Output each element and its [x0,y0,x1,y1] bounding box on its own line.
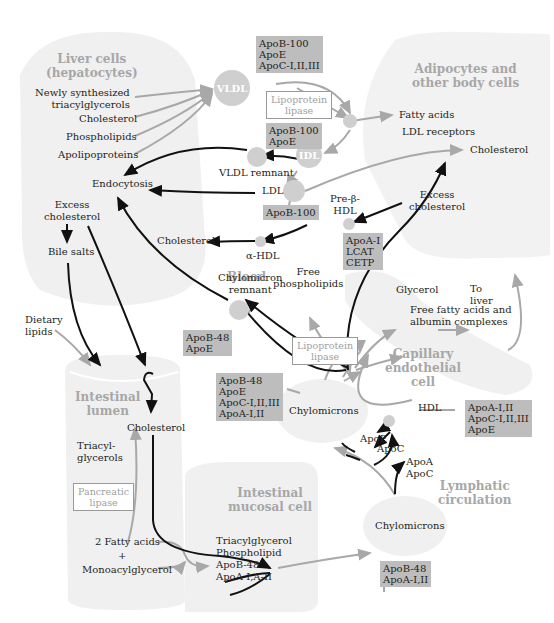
label-cholesterol-lumen: Cholesterol [127,422,185,434]
enzyme-lipoprotein-lipase-top: Lipoprotein lipase [266,91,332,119]
label-alpha-hdl: α-HDL [246,250,280,262]
label-bile-salts: Bile salts [48,246,94,258]
apo-box-vldl: ApoB-100 ApoE ApoC-I,II,III [256,36,323,73]
label-apoc: ApoC [377,443,404,455]
label-free-phospholipids: Free phospholipids [273,266,343,290]
enzyme-lipoprotein-lipase-bottom: Lipoprotein lipase [292,337,358,365]
region-capillary-label: Capillary endothelial cell [385,347,461,389]
label-apoa-apoc: ApoA ApoC [406,456,433,480]
label-triacylglycerols: Triacyl- glycerols [77,440,123,464]
vldl-node: VLDL [214,70,250,106]
pre-beta-hdl-node [343,218,355,230]
label-hdl: HDL [418,402,441,414]
apo-box-chylomicron-lymph: ApoB-48 ApoA-I,II [380,561,431,587]
label-ldl-receptors: LDL receptors [402,126,475,138]
label-dietary-lipids: Dietary lipids [25,314,63,338]
label-mucosal-products: Triacylglycerol Phospholipid ApoB-48 Apo… [216,535,292,583]
label-glycerol: Glycerol [396,284,438,296]
vldl-remnant-node [247,147,267,167]
label-ldl: LDL [262,185,283,197]
apo-box-chylomicron-remnant: ApoB-48 ApoE [183,330,232,356]
lipoprotein-metabolism-diagram: Liver cells (hepatocytes) Adipocytes and… [0,0,554,623]
label-endocytosis: Endocytosis [92,178,153,190]
enzyme-pancreatic-lipase: Pancreatic lipase [73,483,134,511]
label-cholesterol-hdl: Cholesterol [157,235,215,247]
label-2-fatty-acids: 2 Fatty acids [95,536,160,548]
lpl-junction-node [343,114,357,128]
region-liver-label: Liver cells (hepatocytes) [46,52,138,80]
apo-box-pre-beta-hdl: ApoA-I LCAT CETP [343,233,383,270]
region-lymphatic-label: Lymphatic circulation [438,479,511,507]
apo-box-ldl: ApoB-100 [263,205,319,220]
chylomicron-remnant-node [229,300,249,320]
label-pre-beta-hdl: Pre-β- HDL [330,193,360,217]
label-vldl-remnant: VLDL remnant [219,167,294,179]
region-mucosal-cell-label: Intestinal mucosal cell [228,486,312,514]
ldl-node [283,180,305,202]
label-cholesterol-body: Cholesterol [470,144,528,156]
label-chylomicron-remnant: Chylomicron remnant [218,272,282,296]
alpha-hdl-node [255,236,266,247]
label-excess-cholesterol-body: Excess cholesterol [409,189,465,213]
region-adipocytes-label: Adipocytes and other body cells [412,62,519,90]
label-excess-cholesterol-liver: Excess cholesterol [44,199,100,223]
region-intestinal-lumen-label: Intestinal lumen [75,390,140,418]
label-ffa-albumin: Free fatty acids and albumin complexes [410,304,512,328]
label-plus: + [118,550,126,562]
apo-box-hdl: ApoA-I,II ApoC-I,II,III ApoE [465,400,532,437]
label-cholesterol-liver: Cholesterol [79,113,137,125]
label-monoacylglycerol: Monoacylglycerol [82,564,172,576]
label-newly-synthesized-tag: Newly synthesized triacylglycerols [35,87,130,111]
label-phospholipids: Phospholipids [66,131,137,143]
label-chylomicrons-lymph: Chylomicrons [375,520,445,532]
hdl-node [383,415,395,427]
apo-box-chylomicron-blood: ApoB-48 ApoE ApoC-I,II,III ApoA-I,II [216,373,283,421]
label-chylomicrons-blood: Chylomicrons [289,405,359,417]
apo-box-idl: ApoB-100 ApoE [266,123,322,149]
label-apolipoproteins: Apolipoproteins [58,149,138,161]
label-fatty-acids: Fatty acids [399,109,454,121]
